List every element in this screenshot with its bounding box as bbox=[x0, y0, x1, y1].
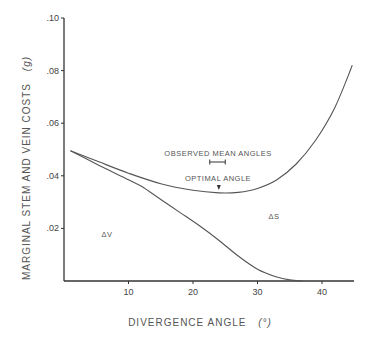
observed-mean-angles-label: OBSERVED MEAN ANGLES bbox=[164, 149, 271, 158]
optimal-angle-label: OPTIMAL ANGLE bbox=[185, 174, 251, 183]
y-tick-label: .10 bbox=[46, 13, 59, 23]
y-axis-title: MARGINAL STEM AND VEIN COSTS (g) bbox=[21, 56, 32, 280]
delta-s-label: ΔS bbox=[268, 212, 279, 221]
y-tick-label: .08 bbox=[46, 66, 59, 76]
x-tick-label: 10 bbox=[123, 287, 133, 297]
x-tick-label: 30 bbox=[252, 287, 262, 297]
y-ticks: .02.04.06.08.10 bbox=[46, 13, 64, 233]
chart: .02.04.06.08.10 10203040 DIVERGENCE ANGL… bbox=[0, 0, 365, 339]
observed-range-bar bbox=[210, 160, 225, 165]
x-tick-label: 40 bbox=[317, 287, 327, 297]
y-tick-label: .06 bbox=[46, 118, 59, 128]
x-axis-title: DIVERGENCE ANGLE (°) bbox=[128, 317, 272, 328]
optimal-angle-arrow-icon bbox=[217, 185, 221, 190]
y-tick-label: .04 bbox=[46, 171, 59, 181]
y-axis-title-text: MARGINAL STEM AND VEIN COSTS bbox=[21, 83, 32, 280]
y-axis-title-unit: (g) bbox=[21, 56, 32, 71]
x-axis-title-text: DIVERGENCE ANGLE bbox=[128, 317, 246, 328]
y-tick-label: .02 bbox=[46, 223, 59, 233]
delta-v-label: ΔV bbox=[101, 230, 112, 239]
x-axis-title-unit: (°) bbox=[258, 317, 272, 328]
x-ticks: 10203040 bbox=[123, 281, 327, 297]
x-tick-label: 20 bbox=[188, 287, 198, 297]
